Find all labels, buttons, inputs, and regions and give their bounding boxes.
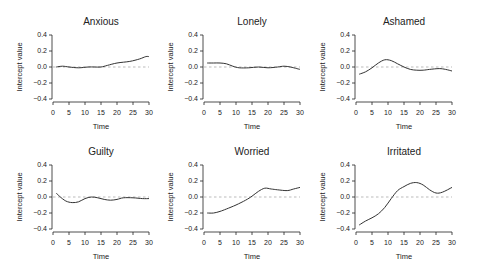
x-axis-label: Time: [244, 252, 260, 261]
data-series-line: [56, 193, 149, 203]
y-axis-label: Intercept value: [166, 42, 175, 91]
x-axis-label: Time: [396, 252, 412, 261]
y-axis-label: Intercept value: [318, 42, 327, 91]
x-tick-label: 0: [51, 109, 55, 116]
x-tick-label: 15: [400, 239, 408, 246]
x-tick-label: 20: [113, 239, 121, 246]
y-tick-label: 0.2: [37, 177, 47, 184]
panel-title: Lonely: [237, 16, 266, 27]
x-tick-label: 5: [218, 239, 222, 246]
panel-guilty: Guilty0.40.20.0−0.2−0.4Intercept value05…: [15, 146, 153, 261]
x-tick-label: 5: [370, 109, 374, 116]
y-tick-label: −0.4: [33, 95, 47, 102]
x-tick-label: 0: [354, 239, 358, 246]
y-tick-label: 0.2: [188, 177, 198, 184]
panel-title: Guilty: [88, 146, 114, 157]
y-tick-label: −0.2: [184, 79, 198, 86]
panel-title: Irritated: [387, 146, 421, 157]
panel-title: Worried: [235, 146, 270, 157]
small-multiples-chart: Anxious0.40.20.0−0.2−0.4Intercept value0…: [0, 0, 478, 274]
y-tick-label: −0.4: [184, 225, 198, 232]
y-tick-label: 0.4: [188, 31, 198, 38]
x-tick-label: 20: [264, 109, 272, 116]
y-tick-label: 0.0: [188, 193, 198, 200]
y-tick-label: −0.4: [184, 95, 198, 102]
x-tick-label: 5: [67, 109, 71, 116]
x-tick-label: 30: [448, 239, 456, 246]
x-tick-label: 10: [81, 109, 89, 116]
x-tick-label: 25: [280, 239, 288, 246]
x-axis-label: Time: [93, 252, 109, 261]
y-axis-label: Intercept value: [15, 172, 24, 221]
y-tick-label: 0.4: [340, 161, 350, 168]
x-tick-label: 0: [354, 109, 358, 116]
y-tick-label: 0.2: [188, 47, 198, 54]
data-series-line: [207, 63, 300, 69]
x-axis-label: Time: [93, 122, 109, 131]
y-tick-label: −0.4: [336, 95, 350, 102]
y-tick-label: −0.4: [33, 225, 47, 232]
panel-title: Anxious: [83, 16, 119, 27]
x-tick-label: 0: [202, 239, 206, 246]
y-tick-label: 0.2: [37, 47, 47, 54]
y-tick-label: −0.4: [336, 225, 350, 232]
x-tick-label: 20: [264, 239, 272, 246]
y-axis-label: Intercept value: [166, 172, 175, 221]
x-tick-label: 25: [129, 239, 137, 246]
y-tick-label: −0.2: [336, 209, 350, 216]
panel-worried: Worried0.40.20.0−0.2−0.4Intercept value0…: [166, 146, 304, 261]
x-tick-label: 15: [97, 109, 105, 116]
x-tick-label: 25: [280, 109, 288, 116]
x-tick-label: 5: [370, 239, 374, 246]
y-tick-label: −0.2: [33, 209, 47, 216]
y-tick-label: −0.2: [33, 79, 47, 86]
y-tick-label: 0.0: [188, 63, 198, 70]
x-tick-label: 5: [218, 109, 222, 116]
y-tick-label: −0.2: [336, 79, 350, 86]
panel-ashamed: Ashamed0.40.20.0−0.2−0.4Intercept value0…: [318, 16, 456, 131]
panel-lonely: Lonely0.40.20.0−0.2−0.4Intercept value05…: [166, 16, 304, 131]
y-tick-label: 0.0: [340, 63, 350, 70]
x-tick-label: 0: [202, 109, 206, 116]
panel-anxious: Anxious0.40.20.0−0.2−0.4Intercept value0…: [15, 16, 153, 131]
x-tick-label: 20: [416, 109, 424, 116]
chart-figure: Anxious0.40.20.0−0.2−0.4Intercept value0…: [0, 0, 478, 274]
y-tick-label: 0.4: [340, 31, 350, 38]
x-tick-label: 10: [81, 239, 89, 246]
y-tick-label: 0.0: [340, 193, 350, 200]
y-tick-label: 0.4: [188, 161, 198, 168]
x-tick-label: 5: [67, 239, 71, 246]
x-axis-label: Time: [396, 122, 412, 131]
x-tick-label: 30: [448, 109, 456, 116]
x-tick-label: 20: [113, 109, 121, 116]
y-axis-label: Intercept value: [15, 42, 24, 91]
y-tick-label: −0.2: [184, 209, 198, 216]
y-tick-label: 0.0: [37, 63, 47, 70]
panel-title: Ashamed: [383, 16, 425, 27]
data-series-line: [207, 187, 300, 213]
x-tick-label: 10: [232, 239, 240, 246]
y-tick-label: 0.4: [37, 31, 47, 38]
x-axis-label: Time: [244, 122, 260, 131]
data-series-line: [359, 183, 452, 225]
x-tick-label: 25: [129, 109, 137, 116]
y-tick-label: 0.4: [37, 161, 47, 168]
x-tick-label: 15: [248, 109, 256, 116]
x-tick-label: 30: [296, 109, 304, 116]
panel-irritated: Irritated0.40.20.0−0.2−0.4Intercept valu…: [318, 146, 456, 261]
x-tick-label: 10: [232, 109, 240, 116]
y-tick-label: 0.2: [340, 47, 350, 54]
y-tick-label: 0.2: [340, 177, 350, 184]
y-tick-label: 0.0: [37, 193, 47, 200]
x-tick-label: 15: [400, 109, 408, 116]
x-tick-label: 30: [145, 109, 153, 116]
x-tick-label: 30: [296, 239, 304, 246]
x-tick-label: 15: [248, 239, 256, 246]
x-tick-label: 10: [384, 239, 392, 246]
x-tick-label: 20: [416, 239, 424, 246]
x-tick-label: 25: [432, 109, 440, 116]
x-tick-label: 10: [384, 109, 392, 116]
x-tick-label: 25: [432, 239, 440, 246]
data-series-line: [56, 56, 149, 67]
x-tick-label: 15: [97, 239, 105, 246]
